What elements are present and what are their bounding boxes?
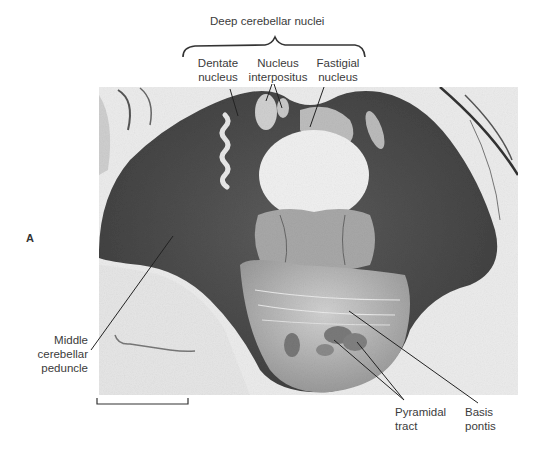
label-line: Nucleus — [245, 56, 311, 70]
label-line: peduncle — [20, 361, 88, 375]
label-fastigial-nucleus: Fastigial nucleus — [310, 56, 366, 84]
label-middle-cerebellar-peduncle: Middle cerebellar peduncle — [20, 333, 88, 375]
label-line: nucleus — [310, 70, 366, 84]
pyramidal-leader-1 — [334, 340, 404, 400]
fastigial-leader — [310, 87, 324, 127]
group-label-deep-cerebellar-nuclei: Deep cerebellar nuclei — [210, 14, 324, 28]
label-dentate-nucleus: Dentate nucleus — [191, 56, 245, 84]
scale-bar — [97, 398, 188, 404]
label-line: Basis — [465, 405, 496, 419]
label-line: Dentate — [191, 56, 245, 70]
dentate-leader — [230, 89, 238, 116]
label-line: interpositus — [245, 70, 311, 84]
label-pyramidal-tract: Pyramidal tract — [395, 405, 446, 433]
pyramidal-leader-2 — [357, 342, 404, 400]
label-line: Pyramidal — [395, 405, 446, 419]
label-line: Fastigial — [310, 56, 366, 70]
label-line: nucleus — [191, 70, 245, 84]
panel-letter: A — [26, 232, 34, 244]
label-nucleus-interpositus: Nucleus interpositus — [245, 56, 311, 84]
label-line: cerebellar — [20, 347, 88, 361]
label-line: tract — [395, 419, 446, 433]
middle-peduncle-leader — [91, 236, 173, 350]
basis-pontis-leader — [349, 311, 478, 403]
interpositus-leader-1 — [266, 84, 272, 101]
interpositus-leader-2 — [274, 84, 282, 108]
deep-nuclei-brace — [183, 37, 365, 57]
label-line: pontis — [465, 419, 496, 433]
label-line: Middle — [20, 333, 88, 347]
label-basis-pontis: Basis pontis — [465, 405, 496, 433]
